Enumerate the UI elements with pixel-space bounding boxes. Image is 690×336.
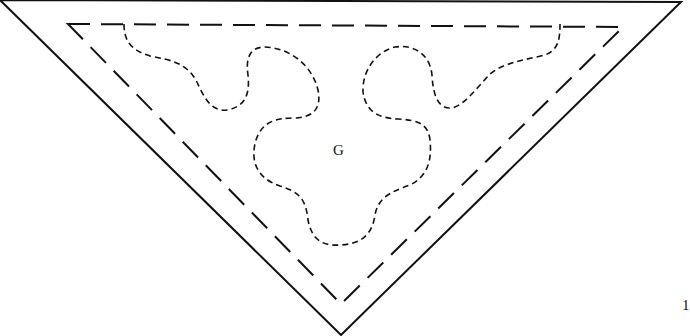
page-marker: 1 xyxy=(682,297,690,314)
region-g-boundary xyxy=(124,24,560,245)
outer-triangle xyxy=(0,0,681,335)
region-label: G xyxy=(333,142,344,159)
inner-dashed-triangle xyxy=(68,24,623,304)
